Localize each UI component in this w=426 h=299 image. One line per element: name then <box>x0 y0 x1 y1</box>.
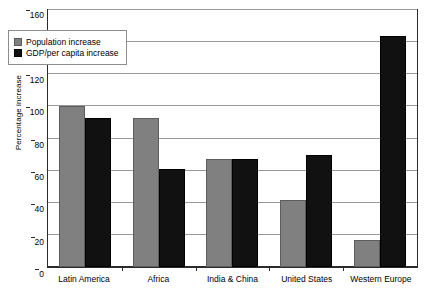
legend-item-population: Population increase <box>14 37 119 47</box>
x-axis-tick-mark <box>343 267 344 271</box>
black-swatch <box>14 49 22 57</box>
bar-group <box>122 10 196 267</box>
x-axis-labels: Latin AmericaAfricaIndia & ChinaUnited S… <box>47 274 418 284</box>
bar-gdp <box>380 36 406 267</box>
legend: Population increase GDP/per capita incre… <box>8 30 127 65</box>
x-axis-category-label: Africa <box>121 274 195 284</box>
bar-gdp <box>306 155 332 267</box>
gray-swatch <box>14 38 22 46</box>
legend-item-label: GDP/per capita increase <box>26 48 119 58</box>
legend-item-label: Population increase <box>26 37 101 47</box>
bar-chart: Percentage increase 02040608010012014016… <box>0 0 426 299</box>
bar-gdp <box>159 169 185 267</box>
bar-group <box>343 10 417 267</box>
x-axis-category-label: Western Europe <box>344 274 418 284</box>
bar-population <box>354 240 380 267</box>
x-axis-category-label: Latin America <box>47 274 121 284</box>
legend-item-gdp: GDP/per capita increase <box>14 48 119 58</box>
x-axis-category-label: India & China <box>195 274 269 284</box>
bar-population <box>280 200 306 267</box>
bar-group <box>269 10 343 267</box>
bar-gdp <box>85 118 111 267</box>
x-axis-tick-mark <box>196 267 197 271</box>
x-axis-category-label: United States <box>270 274 344 284</box>
x-axis-tick-mark <box>122 267 123 271</box>
bar-group <box>196 10 270 267</box>
x-axis-tick-mark <box>269 267 270 271</box>
bar-gdp <box>232 159 258 267</box>
bar-population <box>206 159 232 267</box>
bar-population <box>133 118 159 267</box>
bar-population <box>59 106 85 267</box>
